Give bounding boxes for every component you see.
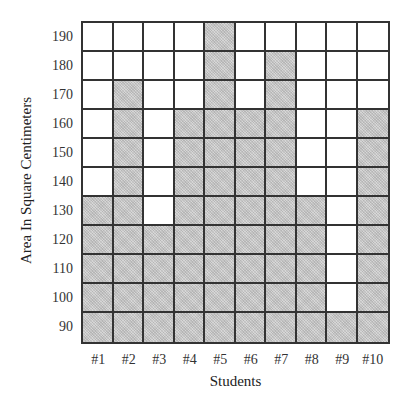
x-tick-label: #8 [296,352,327,368]
grid-cell [205,313,236,342]
grid-cell [144,52,175,81]
y-tick-label: 130 [33,203,73,219]
grid-cell [327,284,358,313]
grid-cell [114,255,145,284]
grid-cell [144,226,175,255]
grid-cell [83,81,114,110]
grid-cell [266,313,297,342]
grid-cell [266,52,297,81]
x-tick-label: #5 [205,352,236,368]
grid-cell [327,23,358,52]
grid-cell [236,197,267,226]
grid-cell [236,81,267,110]
grid-cell [144,197,175,226]
grid-cell [144,255,175,284]
grid-cell [83,255,114,284]
grid-cell [83,226,114,255]
grid-cell [327,313,358,342]
x-tick-label: #1 [83,352,114,368]
y-tick-label: 90 [33,319,73,335]
y-tick-label: 180 [33,58,73,74]
grid-cell [266,255,297,284]
grid-cell [114,197,145,226]
grid-cell [205,226,236,255]
y-tick-label: 170 [33,87,73,103]
grid-cell [114,23,145,52]
grid-cell [175,110,206,139]
grid-cell [327,226,358,255]
grid-cell [297,284,328,313]
grid-cell [358,197,389,226]
grid-cell [358,313,389,342]
grid-cell [144,110,175,139]
x-tick-label: #10 [357,352,388,368]
grid-cell [236,23,267,52]
grid-cell [83,168,114,197]
grid-cell [205,284,236,313]
grid-cell [83,313,114,342]
grid-cell [358,255,389,284]
grid-cell [327,255,358,284]
grid-cell [266,110,297,139]
grid-cell [327,81,358,110]
grid-cell [266,168,297,197]
grid-cell [114,139,145,168]
grid-cell [236,52,267,81]
grid-cell [175,52,206,81]
grid-cell [205,139,236,168]
grid-cell [175,23,206,52]
grid-cell [114,110,145,139]
grid-cell [175,284,206,313]
grid-cell [175,81,206,110]
grid-cell [175,255,206,284]
grid-cell [144,284,175,313]
grid-cell [175,139,206,168]
grid-cell [114,81,145,110]
grid-cell [327,139,358,168]
grid-cell [83,139,114,168]
grid-cell [114,52,145,81]
grid-cell [266,226,297,255]
plot-grid [81,21,390,344]
grid-cell [297,255,328,284]
grid-cell [114,284,145,313]
grid-cell [205,255,236,284]
grid-cell [358,168,389,197]
grid-cell [83,284,114,313]
y-tick-label: 160 [33,116,73,132]
grid-cell [327,52,358,81]
grid-cell [297,110,328,139]
grid-cell [297,81,328,110]
y-tick-label: 140 [33,174,73,190]
grid-cell [236,255,267,284]
x-tick-label: #7 [266,352,297,368]
grid-cell [83,23,114,52]
grid-cell [266,81,297,110]
grid-cell [205,52,236,81]
y-tick-label: 120 [33,232,73,248]
grid-cell [266,197,297,226]
grid-cell [358,110,389,139]
grid-cell [236,226,267,255]
grid-cell [205,110,236,139]
grid-cell [358,81,389,110]
grid-cell [297,226,328,255]
grid-cell [358,52,389,81]
area-grid-chart: Area In Square Centimeters 1901801701601… [0,0,419,408]
grid-cell [297,313,328,342]
grid-cell [358,284,389,313]
y-axis-label: Area In Square Centimeters [18,91,35,271]
grid-cell [297,23,328,52]
grid-cell [236,313,267,342]
grid-cell [297,52,328,81]
grid-cell [327,110,358,139]
grid-cell [266,284,297,313]
grid-cell [83,197,114,226]
grid-cell [205,168,236,197]
grid-cell [236,284,267,313]
grid-cell [144,81,175,110]
grid-cell [297,197,328,226]
grid-cell [297,168,328,197]
x-tick-label: #4 [174,352,205,368]
grid-cell [358,226,389,255]
